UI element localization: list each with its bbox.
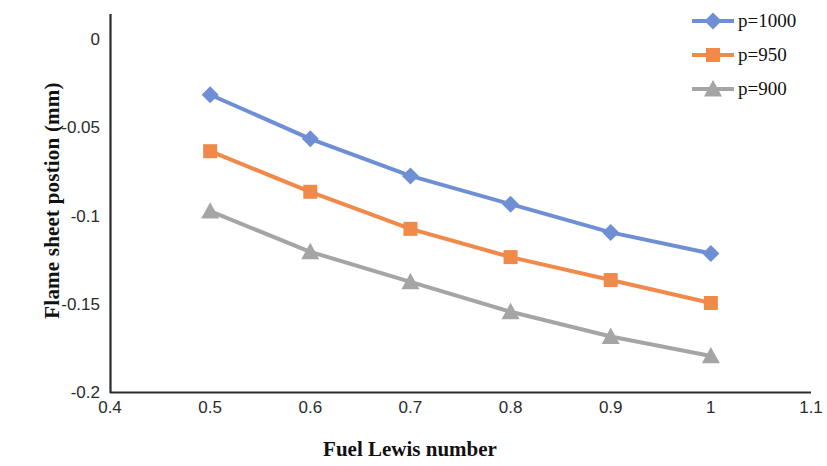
data-point-marker (704, 296, 718, 310)
data-point-marker (403, 222, 417, 236)
legend-label: p=1000 (736, 10, 796, 32)
data-point-marker (706, 48, 720, 62)
legend-label: p=900 (736, 78, 787, 100)
chart-legend: p=1000p=950p=900 (690, 4, 821, 106)
series-line (210, 211, 711, 356)
series-line (210, 151, 711, 303)
legend-item[interactable]: p=950 (690, 38, 821, 72)
data-series (202, 86, 720, 262)
data-point-marker (201, 202, 219, 218)
data-point-marker (504, 250, 518, 264)
data-point-marker (302, 130, 319, 147)
data-point-marker (602, 224, 619, 241)
series-line (210, 95, 711, 254)
data-series (203, 144, 718, 310)
legend-label: p=950 (736, 44, 787, 66)
legend-marker-diamond-icon (690, 11, 736, 31)
data-point-marker (502, 196, 519, 213)
data-point-marker (202, 86, 219, 103)
legend-marker-triangle-icon (690, 79, 736, 99)
data-point-marker (303, 185, 317, 199)
data-point-marker (604, 273, 618, 287)
data-point-marker (402, 167, 419, 184)
legend-marker-square-icon (690, 45, 736, 65)
series-layer (201, 86, 720, 363)
data-point-marker (705, 13, 722, 30)
legend-item[interactable]: p=1000 (690, 4, 821, 38)
data-point-marker (702, 245, 719, 262)
legend-item[interactable]: p=900 (690, 72, 821, 106)
data-series (201, 202, 720, 363)
data-point-marker (203, 144, 217, 158)
